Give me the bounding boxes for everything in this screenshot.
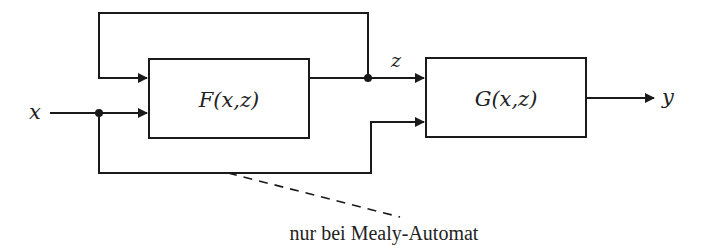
mealy-moore-diagram: x z y F(x,z) G(x,z) nur bei Mealy-Automa… [0, 0, 703, 252]
junction-dot-z [364, 74, 372, 82]
block-g-label: G(x,z) [475, 87, 538, 111]
state-label: z [390, 49, 402, 71]
junction-dot-x [95, 109, 103, 117]
diagram-canvas: x z y F(x,z) G(x,z) nur bei Mealy-Automa… [0, 0, 703, 252]
annotation-text: nur bei Mealy-Automat [290, 222, 479, 245]
input-label: x [29, 100, 41, 124]
feedback-loop-arrow [99, 13, 368, 78]
mealy-x-path-arrow [99, 113, 424, 173]
block-f-label: F(x,z) [198, 88, 260, 112]
annotation-pointer [228, 173, 400, 217]
output-label: y [661, 85, 675, 109]
